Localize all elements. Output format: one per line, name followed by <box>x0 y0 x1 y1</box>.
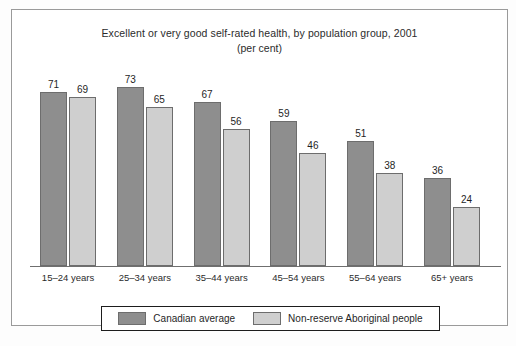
bar-column: 51 <box>347 70 374 266</box>
x-axis-label: 65+ years <box>418 269 486 287</box>
x-axis-label: 55–64 years <box>341 269 409 287</box>
bar[interactable] <box>69 97 96 266</box>
bar-value-label: 71 <box>40 79 67 90</box>
legend-item: Canadian average <box>118 312 235 325</box>
bar-column: 56 <box>223 70 250 266</box>
chart-subtitle: (per cent) <box>12 41 507 56</box>
x-axis-label: 45–54 years <box>264 269 332 287</box>
bar-value-label: 56 <box>223 116 250 127</box>
legend-item-label: Canadian average <box>153 313 235 324</box>
chart-title: Excellent or very good self-rated health… <box>12 26 507 41</box>
bar-value-label: 65 <box>146 94 173 105</box>
bar-group: 5138 <box>347 70 403 266</box>
bar-group: 7365 <box>117 70 173 266</box>
legend-swatch-icon <box>118 312 146 325</box>
bar-column: 36 <box>424 70 451 266</box>
bar[interactable] <box>194 102 221 266</box>
bar[interactable] <box>146 107 173 266</box>
x-axis-line <box>30 266 501 267</box>
bar-column: 59 <box>270 70 297 266</box>
chart-legend: Canadian average Non-reserve Aboriginal … <box>101 306 440 331</box>
bar[interactable] <box>223 129 250 266</box>
bar-group: 3624 <box>424 70 480 266</box>
bar-value-label: 51 <box>347 128 374 139</box>
plot-area: 716973656756594651383624 <box>30 70 490 266</box>
bar-value-label: 24 <box>453 194 480 205</box>
legend-swatch-icon <box>253 312 281 325</box>
bar[interactable] <box>453 207 480 266</box>
bar-value-label: 38 <box>376 160 403 171</box>
bar-group: 6756 <box>194 70 250 266</box>
bar-column: 67 <box>194 70 221 266</box>
bar-column: 71 <box>40 70 67 266</box>
bar-group: 7169 <box>40 70 96 266</box>
bar[interactable] <box>424 178 451 266</box>
figure-frame: Excellent or very good self-rated health… <box>11 9 508 326</box>
bar[interactable] <box>347 141 374 266</box>
bar[interactable] <box>299 153 326 266</box>
x-axis-label: 25–34 years <box>111 269 179 287</box>
bar-column: 73 <box>117 70 144 266</box>
bar-value-label: 67 <box>194 89 221 100</box>
bar[interactable] <box>376 173 403 266</box>
x-axis-label: 15–24 years <box>34 269 102 287</box>
bar-value-label: 46 <box>299 140 326 151</box>
bar-column: 46 <box>299 70 326 266</box>
x-axis-labels: 15–24 years25–34 years35–44 years45–54 y… <box>30 269 490 287</box>
bar-value-label: 36 <box>424 165 451 176</box>
bar-groups: 716973656756594651383624 <box>30 70 490 266</box>
bar-column: 69 <box>69 70 96 266</box>
bar-column: 24 <box>453 70 480 266</box>
bar[interactable] <box>270 121 297 266</box>
bar-value-label: 69 <box>69 84 96 95</box>
bar[interactable] <box>117 87 144 266</box>
legend-item-label: Non-reserve Aboriginal people <box>288 313 423 324</box>
bar[interactable] <box>40 92 67 266</box>
bar-column: 38 <box>376 70 403 266</box>
bar-value-label: 59 <box>270 108 297 119</box>
x-axis-label: 35–44 years <box>188 269 256 287</box>
bar-value-label: 73 <box>117 74 144 85</box>
bar-group: 5946 <box>270 70 326 266</box>
bar-column: 65 <box>146 70 173 266</box>
legend-item: Non-reserve Aboriginal people <box>253 312 423 325</box>
figure-root: Excellent or very good self-rated health… <box>0 0 516 346</box>
